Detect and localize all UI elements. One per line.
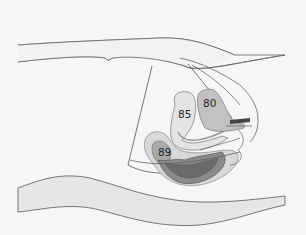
lower-band [18,176,285,226]
region-80-shape [197,89,244,131]
label-85: 85 [178,108,191,120]
diagram-canvas: 80 85 89 [0,0,306,235]
anatomy-diagram: 80 85 89 [0,0,306,235]
label-89: 89 [158,146,171,158]
label-80: 80 [203,97,216,109]
